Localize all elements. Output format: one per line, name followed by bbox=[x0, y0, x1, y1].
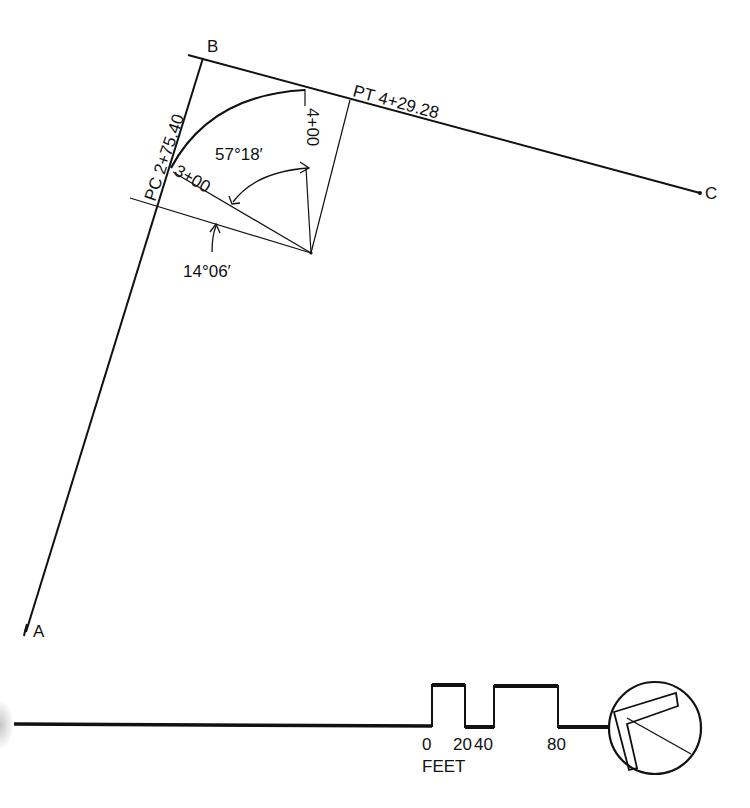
central-angle-arrowhead-right bbox=[300, 162, 309, 173]
curve-center-marker bbox=[309, 251, 312, 254]
scale-tick-20: 20 bbox=[453, 735, 472, 754]
point-c-marker bbox=[698, 191, 702, 195]
label-station-400: 4+00 bbox=[303, 108, 322, 146]
tangent-line-bc bbox=[188, 55, 700, 193]
label-deflection-angle: 14°06′ bbox=[183, 262, 231, 281]
radius-line-400 bbox=[306, 168, 311, 253]
label-point-b: B bbox=[207, 37, 218, 56]
label-point-a: A bbox=[33, 622, 45, 641]
central-angle-arc bbox=[233, 168, 308, 202]
label-station-300: 3+00 bbox=[171, 161, 214, 197]
label-point-c: C bbox=[705, 184, 717, 203]
label-central-angle: 57°18′ bbox=[215, 145, 263, 164]
scale-tick-0: 0 bbox=[422, 735, 431, 754]
scale-bar bbox=[14, 685, 610, 727]
north-arrow-icon bbox=[609, 682, 701, 774]
scale-tick-40: 40 bbox=[474, 735, 493, 754]
deflection-angle-arrow bbox=[212, 226, 216, 252]
label-pt-station: PT 4+29.28 bbox=[351, 82, 441, 123]
survey-diagram: B C A PT 4+29.28 PC 2+75.40 3+00 4+00 57… bbox=[0, 0, 750, 808]
radius-line-pc-extended bbox=[130, 198, 311, 253]
scale-tick-80: 80 bbox=[547, 735, 566, 754]
scale-bar-lead bbox=[14, 724, 432, 726]
label-pc-station: PC 2+75.40 bbox=[141, 112, 188, 204]
scale-unit-label: FEET bbox=[422, 757, 465, 776]
